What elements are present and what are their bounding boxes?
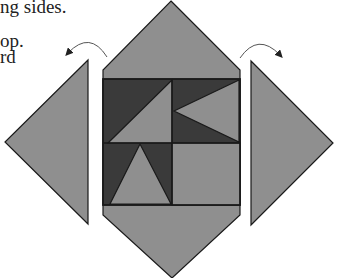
- folding-diagram: [0, 0, 340, 278]
- right-fold-arrow-icon: [240, 44, 280, 58]
- left-fold-arrow-icon: [68, 42, 107, 57]
- bottom-right-gray-square: [172, 143, 240, 205]
- left-flap-triangle: [5, 60, 88, 224]
- right-flap-triangle: [251, 61, 333, 225]
